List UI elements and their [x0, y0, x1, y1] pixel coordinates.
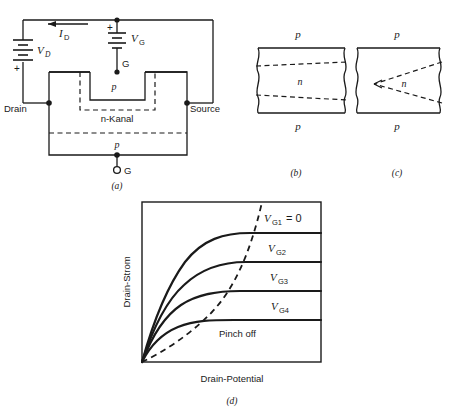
- caption-panel-d: (d): [226, 396, 237, 407]
- node-gate-top: [114, 69, 119, 74]
- label-vd-plus: +: [14, 63, 20, 74]
- annotation-vg4: V G4: [271, 300, 289, 315]
- figure-svg: V D + I D + V G G p: [0, 0, 449, 416]
- label-c-n-mid: n: [402, 78, 407, 89]
- annotation-vg3-v: V: [270, 271, 278, 283]
- label-drain: Drain: [4, 103, 27, 114]
- label-gate-bottom: G: [124, 165, 131, 176]
- label-vg-sub: G: [139, 38, 145, 47]
- label-p-top: p: [111, 81, 117, 92]
- annotation-vg3: V G3: [270, 271, 288, 286]
- label-vg: V: [131, 32, 139, 44]
- curve-vg2: [142, 262, 321, 362]
- depletion-b-lower: [256, 95, 347, 100]
- axis-label-y: Drain-Strom: [121, 256, 132, 307]
- depletion-c-lower: [374, 84, 442, 103]
- label-p-bottom: p: [114, 139, 120, 150]
- label-b-p-bottom: p: [294, 120, 301, 132]
- annotation-vg1-suffix: = 0: [283, 212, 302, 224]
- panel-c: p n p (c): [356, 28, 442, 179]
- node-top-vg: [114, 17, 119, 22]
- battery-vd: [13, 40, 33, 60]
- annotation-vg2-v: V: [268, 242, 276, 254]
- label-b-p-top: p: [294, 28, 301, 40]
- label-c-p-bottom: p: [393, 120, 400, 132]
- annotation-vg2: V G2: [268, 242, 286, 257]
- annotation-vg2-sub: G2: [276, 248, 286, 257]
- caption-panel-c: (c): [392, 168, 403, 179]
- node-drain: [46, 100, 52, 106]
- label-gate-top: G: [122, 58, 129, 69]
- slab-b-left-torn-edge: [257, 48, 259, 113]
- slab-b-right-torn-edge: [344, 48, 346, 113]
- depletion-c-upper: [374, 62, 442, 84]
- annotation-vg1: V G1 = 0: [264, 212, 302, 227]
- depletion-b-upper: [256, 62, 347, 66]
- figure-jfet: V D + I D + V G G p: [0, 0, 449, 416]
- depletion-boundary-upper: [80, 72, 155, 110]
- annotation-vg1-v: V: [264, 212, 272, 224]
- curve-vg1: [142, 233, 321, 362]
- annotation-vg4-sub: G4: [279, 306, 289, 315]
- caption-panel-a: (a): [111, 181, 122, 192]
- annotation-vg1-sub: G1: [272, 218, 282, 227]
- label-b-n-mid: n: [298, 76, 303, 87]
- node-source: [184, 100, 190, 106]
- panel-a: V D + I D + V G G p: [4, 17, 220, 192]
- annotation-vg3-sub: G3: [278, 277, 288, 286]
- pinch-point-c: [374, 80, 382, 88]
- label-id-sub: D: [64, 33, 70, 42]
- label-n-kanal: n-Kanal: [101, 113, 134, 124]
- p-gate-box: [90, 72, 145, 100]
- label-source: Source: [190, 103, 220, 114]
- curve-vg4: [142, 320, 321, 362]
- axis-label-x: Drain-Potential: [201, 373, 264, 384]
- battery-vg: [108, 33, 126, 48]
- slab-c-left-torn-edge: [356, 48, 358, 113]
- terminal-gate-bottom: [114, 167, 121, 174]
- panel-d: V G1 = 0 V G2 V G3 V G4 Pinch off Drain-…: [121, 202, 321, 407]
- current-arrow-id: [48, 21, 88, 27]
- annotation-vg4-v: V: [271, 300, 279, 312]
- label-c-p-top: p: [393, 28, 400, 40]
- caption-panel-b: (b): [290, 168, 301, 179]
- annotation-pinch-off: Pinch off: [219, 328, 256, 339]
- label-vg-plus: +: [107, 22, 113, 33]
- label-vd: V: [37, 44, 45, 56]
- label-vd-sub: D: [44, 50, 51, 59]
- panel-b: p n p (b): [256, 28, 347, 179]
